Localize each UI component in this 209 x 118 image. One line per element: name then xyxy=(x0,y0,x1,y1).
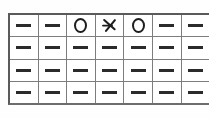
dash-glyph xyxy=(45,46,60,49)
dash-glyph xyxy=(73,91,88,94)
grid-cell[interactable] xyxy=(10,82,39,103)
grid-cell[interactable] xyxy=(10,60,39,81)
dash-glyph xyxy=(16,91,31,94)
grid-cell[interactable] xyxy=(39,60,68,81)
dash-glyph xyxy=(188,46,203,49)
grid-cell[interactable] xyxy=(96,82,125,103)
dash-glyph xyxy=(159,91,174,94)
grid-cell[interactable] xyxy=(124,82,153,103)
dash-glyph xyxy=(73,46,88,49)
circle-glyph xyxy=(74,18,87,33)
dash-glyph xyxy=(45,91,60,94)
dash-glyph xyxy=(188,69,203,72)
grid-cell[interactable] xyxy=(182,15,209,36)
dash-glyph xyxy=(16,69,31,72)
dash-glyph xyxy=(159,46,174,49)
dash-glyph xyxy=(131,69,146,72)
dash-glyph xyxy=(102,46,117,49)
grid-cell[interactable] xyxy=(67,37,96,58)
grid-cell[interactable] xyxy=(10,37,39,58)
grid-cell[interactable] xyxy=(182,82,209,103)
dash-glyph xyxy=(102,91,117,94)
dash-glyph xyxy=(131,46,146,49)
grid-cell[interactable] xyxy=(67,15,96,36)
dash-glyph xyxy=(45,69,60,72)
grid-cell[interactable] xyxy=(182,37,209,58)
grid-cell[interactable] xyxy=(124,37,153,58)
glyph-grid xyxy=(8,13,209,105)
dash-glyph xyxy=(102,69,117,72)
grid-cell[interactable] xyxy=(39,37,68,58)
grid-cell[interactable] xyxy=(153,37,182,58)
grid-cell[interactable] xyxy=(124,15,153,36)
grid-cell[interactable] xyxy=(67,82,96,103)
grid-cell[interactable] xyxy=(10,15,39,36)
grid-row xyxy=(10,37,209,59)
grid-cell[interactable] xyxy=(124,60,153,81)
screenshot-root xyxy=(0,0,209,118)
dash-glyph xyxy=(45,24,60,27)
grid-cell[interactable] xyxy=(96,60,125,81)
grid-cell[interactable] xyxy=(153,60,182,81)
grid-cell[interactable] xyxy=(182,60,209,81)
grid-row xyxy=(10,82,209,103)
grid-cell[interactable] xyxy=(153,15,182,36)
dash-glyph xyxy=(188,91,203,94)
dash-glyph xyxy=(159,24,174,27)
grid-cell[interactable] xyxy=(39,82,68,103)
circle-glyph xyxy=(132,18,145,33)
dash-glyph xyxy=(188,24,203,27)
grid-cell[interactable] xyxy=(96,15,125,36)
grid-cell[interactable] xyxy=(39,15,68,36)
dash-glyph xyxy=(159,69,174,72)
grid-row xyxy=(10,60,209,82)
dash-glyph xyxy=(131,91,146,94)
dash-glyph xyxy=(16,46,31,49)
dash-glyph xyxy=(73,69,88,72)
dash-glyph xyxy=(16,24,31,27)
grid-row xyxy=(10,15,209,37)
grid-cell[interactable] xyxy=(67,60,96,81)
grid-cell[interactable] xyxy=(96,37,125,58)
grid-cell[interactable] xyxy=(153,82,182,103)
arrow-glyph xyxy=(101,17,119,35)
